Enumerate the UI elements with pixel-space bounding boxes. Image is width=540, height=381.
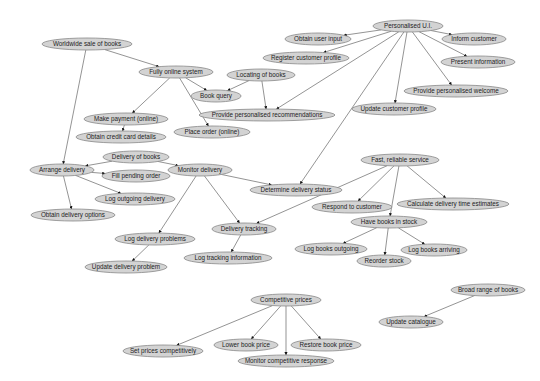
node-determine-status[interactable]: Determine delivery status [250,184,342,196]
node-worldwide[interactable]: Worldwide sale of books [42,38,132,50]
node-obtain-delivery-options[interactable]: Obtain delivery options [31,209,115,221]
node-personalised-ui[interactable]: Personalised U.I. [373,20,443,32]
node-respond-customer[interactable]: Respond to customer [312,201,392,213]
node-monitor-competitive[interactable]: Monitor competitive response [238,355,334,367]
node-place-order[interactable]: Place order (online) [174,126,250,138]
node-set-prices[interactable]: Set prices competitively [123,345,203,357]
node-update-catalogue[interactable]: Update catalogue [379,316,443,328]
edge-monitor_delivery-to-determine_status [221,174,271,184]
node-label: Provide personalised welcome [413,87,499,95]
edge-fast_reliable-to-respond_customer [358,166,394,201]
node-log-delivery-problems[interactable]: Log delivery problems [115,233,195,245]
edge-line [204,176,239,223]
edge-have_books-to-log_books_arriving [398,228,424,244]
node-label: Obtain delivery options [41,211,105,219]
node-fill-pending[interactable]: Fill pending order [102,170,170,182]
node-present-info[interactable]: Present information [441,56,515,68]
edge-line [385,228,388,255]
node-label: Respond to customer [322,203,382,211]
node-fast-reliable[interactable]: Fast, reliable service [361,154,439,166]
node-restore-price[interactable]: Restore book price [291,339,361,351]
node-label: Update customer profile [361,105,428,113]
edge-line [123,125,125,131]
edge-make_payment-to-obtain_cc [123,125,125,131]
node-label: Obtain user input [294,35,342,43]
node-book-query[interactable]: Book query [191,90,241,102]
edge-worldwide-to-arrange_delivery [63,50,86,164]
node-have-books[interactable]: Have books in stock [351,216,427,228]
node-arrange-delivery[interactable]: Arrange delivery [30,164,94,176]
edge-line [63,176,71,209]
node-broad-range[interactable]: Broad range of books [451,284,525,296]
edge-delivery_of_books-to-monitor_delivery [158,161,178,165]
edge-personalised_ui-to-obtain_input [344,30,381,35]
node-lower-price[interactable]: Lower book price [214,339,278,351]
node-competitive-prices[interactable]: Competitive prices [251,294,321,306]
edge-line [431,31,452,35]
edge-competitive_prices-to-lower_price [251,306,280,339]
node-delivery-of-books[interactable]: Delivery of books [103,151,169,163]
node-calc-delivery[interactable]: Calculate delivery time estimates [397,198,509,210]
edge-line [132,245,149,261]
node-label: Make payment (online) [94,115,158,123]
edge-line [63,50,86,164]
node-obtain-input[interactable]: Obtain user input [285,33,351,45]
node-label: Log outgoing delivery [105,195,166,203]
node-reorder-stock[interactable]: Reorder stock [357,255,411,267]
edge-delivery_tracking-to-log_tracking [231,235,240,252]
node-monitor-delivery[interactable]: Monitor delivery [168,164,232,176]
node-label: Competitive prices [260,296,312,304]
edge-line [398,228,424,244]
edge-worldwide-to-fully_online [105,50,159,67]
edge-locating-to-book_query [227,81,249,91]
node-update-delivery-problem[interactable]: Update delivery problem [85,261,167,273]
edge-fast_reliable-to-calc_delivery [407,166,446,198]
node-layer: Worldwide sale of booksFully online syst… [30,20,525,367]
goal-diagram: Worldwide sale of booksFully online syst… [0,0,540,381]
node-obtain-cc[interactable]: Obtain credit card details [76,131,166,143]
edge-line [343,228,377,244]
node-log-books-outgoing[interactable]: Log books outgoing [295,243,367,255]
node-label: Fill pending order [112,172,161,180]
edge-line [186,78,207,91]
node-label: Update catalogue [386,318,436,326]
node-log-outgoing-delivery[interactable]: Log outgoing delivery [95,193,175,205]
node-log-books-arriving[interactable]: Log books arriving [401,244,467,256]
edge-monitor_delivery-to-log_delivery_problems [159,176,196,233]
node-label: Delivery tracking [221,225,268,233]
node-label: Log books outgoing [304,245,359,253]
node-log-tracking[interactable]: Log tracking information [184,252,272,264]
edge-line [159,176,196,233]
edge-line [358,166,394,201]
node-make-payment[interactable]: Make payment (online) [84,113,168,125]
node-fully-online[interactable]: Fully online system [139,66,213,78]
edge-have_books-to-log_books_outgoing [343,228,377,244]
edge-monitor_delivery-to-delivery_tracking [204,176,239,223]
node-personalised-welcome[interactable]: Provide personalised welcome [404,85,508,97]
node-label: Fast, reliable service [371,156,429,163]
edge-line [262,81,266,109]
node-label: Delivery of books [112,153,160,161]
node-label: Locating of books [236,71,285,79]
edge-line [180,78,209,126]
edge-fully_online-to-place_order [180,78,209,126]
node-label: Restore book price [300,341,353,349]
node-label: Register customer profile [271,54,341,62]
node-label: Log tracking information [194,254,262,262]
edge-fully_online-to-make_payment [132,78,169,113]
node-provide-recs[interactable]: Provide personalised recommendations [199,109,335,121]
node-delivery-tracking[interactable]: Delivery tracking [212,223,276,235]
node-label: Worldwide sale of books [53,40,121,47]
node-update-profile[interactable]: Update customer profile [352,103,436,115]
edge-line [231,235,240,252]
node-label: Present information [451,58,506,65]
node-inform-customer[interactable]: Inform customer [442,33,506,45]
node-label: Reorder stock [364,257,404,264]
edge-have_books-to-reorder_stock [385,228,388,255]
node-label: Provide personalised recommendations [212,111,323,119]
edge-locating-to-provide_recs [262,81,266,109]
edge-line [407,166,446,198]
node-locating[interactable]: Locating of books [227,69,295,81]
edge-personalised_ui-to-inform_customer [431,31,452,35]
node-register-profile[interactable]: Register customer profile [263,52,349,64]
